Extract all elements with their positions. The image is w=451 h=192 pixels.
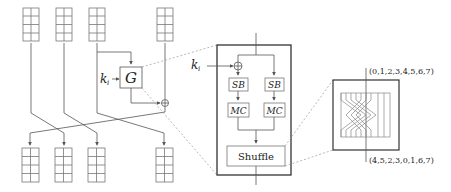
shuffle-detail: (0,1,2,3,4,5,6,7) (4,5,2,3,0,1,6,7) <box>333 67 434 165</box>
input-state-blocks <box>23 8 173 41</box>
output-block-3 <box>156 148 173 182</box>
sb-left-box: SB <box>229 78 248 91</box>
svg-text:i: i <box>198 65 200 73</box>
cipher-diagram: G k i <box>0 0 451 192</box>
input-block-0 <box>23 8 39 41</box>
feistel-wires <box>30 43 165 145</box>
mc-right-box: MC <box>264 103 285 117</box>
shuffle-input-order: (0,1,2,3,4,5,6,7) <box>369 67 434 76</box>
zoom-lines-g <box>142 45 217 175</box>
sb-right-box: SB <box>265 78 284 91</box>
zoom-lines-shuffle <box>285 80 333 166</box>
input-block-2 <box>89 8 105 41</box>
output-block-2 <box>88 148 105 182</box>
g-label: G <box>125 69 137 87</box>
shuffle-output-order: (4,5,2,3,0,1,6,7) <box>369 156 434 165</box>
svg-text:MC: MC <box>265 106 282 116</box>
shuffle-wires <box>341 93 390 137</box>
shuffle-box: Shuffle <box>227 146 285 166</box>
svg-text:Shuffle: Shuffle <box>238 151 274 162</box>
left-xor-icon <box>162 100 169 107</box>
mc-left-box: MC <box>228 103 249 117</box>
input-block-1 <box>56 8 72 41</box>
svg-text:i: i <box>107 79 109 87</box>
g-xor-icon <box>234 62 242 70</box>
svg-text:MC: MC <box>229 106 246 116</box>
g-function-box: G <box>120 67 142 88</box>
g-key-label: k i <box>191 58 200 73</box>
output-block-1 <box>55 148 72 182</box>
svg-text:SB: SB <box>232 80 245 90</box>
left-key-label: k i <box>100 72 109 87</box>
svg-text:SB: SB <box>268 80 281 90</box>
output-state-blocks <box>22 148 173 182</box>
input-block-3 <box>157 8 173 41</box>
output-block-0 <box>22 148 39 182</box>
